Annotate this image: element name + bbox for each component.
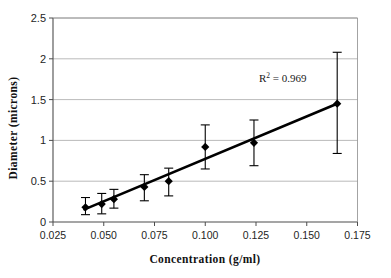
y-tick-label: 1.5: [31, 94, 46, 106]
y-tick-label: 2: [40, 53, 46, 65]
x-tick-label: 0.125: [243, 229, 269, 241]
y-tick-label: 0.5: [31, 175, 46, 187]
x-tick-label: 0.050: [91, 229, 117, 241]
scatter-chart: 00.511.522.5 0.0250.0500.0750.1000.1250.…: [0, 0, 391, 278]
x-tick-label: 0.075: [141, 229, 167, 241]
x-axis-title: Concentration (g/ml): [149, 253, 260, 266]
y-tick-label: 1: [40, 134, 46, 146]
r-squared-annotation: R2 = 0.969: [259, 71, 307, 84]
x-tick-label: 0.150: [294, 229, 320, 241]
x-tick-label: 0.175: [344, 229, 370, 241]
y-tick-label: 2.5: [31, 12, 46, 24]
x-tick-label: 0.100: [192, 229, 218, 241]
y-tick-label: 0: [40, 216, 46, 228]
x-tick-label: 0.025: [40, 229, 66, 241]
y-axis-title: Diameter (microns): [7, 77, 20, 180]
chart-container: 00.511.522.5 0.0250.0500.0750.1000.1250.…: [0, 0, 391, 278]
